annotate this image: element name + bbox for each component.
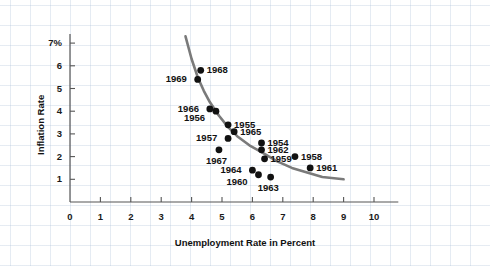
data-point [213, 108, 220, 115]
x-tick-label: 6 [237, 212, 267, 222]
data-point-label: 1963 [258, 183, 279, 193]
data-point-label: 1961 [316, 163, 337, 173]
data-point [225, 135, 232, 142]
x-tick-label: 4 [177, 212, 207, 222]
data-point-label: 1969 [166, 74, 187, 84]
x-tick-label: 7 [268, 212, 298, 222]
data-point [261, 155, 268, 162]
x-tick-label: 3 [146, 212, 176, 222]
data-point [307, 165, 314, 172]
y-tick-label: 5 [22, 84, 62, 94]
x-tick-label: 9 [329, 212, 359, 222]
origin-label: 0 [55, 212, 85, 222]
data-point-label: 1958 [301, 152, 322, 162]
data-point-label: 1959 [271, 154, 292, 164]
data-point-label: 1968 [207, 65, 228, 75]
y-axis-title: Inflation Rate [36, 94, 46, 154]
data-point [206, 106, 213, 113]
data-point [292, 153, 299, 160]
x-tick-label: 8 [298, 212, 328, 222]
y-tick-label: 6 [22, 61, 62, 71]
chart-container: 1234567%01234567891019681969196619561955… [0, 0, 490, 266]
data-point [258, 140, 265, 147]
data-point [216, 146, 223, 153]
data-point [258, 146, 265, 153]
data-point [194, 76, 201, 83]
data-point-label: 1964 [220, 165, 241, 175]
data-point [197, 67, 204, 74]
y-tick-label: 7% [22, 38, 62, 48]
data-point [255, 171, 262, 178]
data-point [267, 174, 274, 181]
data-point-label: 1957 [196, 133, 217, 143]
data-point [249, 167, 256, 174]
data-point [225, 121, 232, 128]
x-tick-label: 5 [207, 212, 237, 222]
x-axis-title: Unemployment Rate in Percent [0, 238, 490, 248]
data-point-label: 1965 [240, 127, 261, 137]
data-point-label: 1960 [226, 177, 247, 187]
x-tick-label: 10 [359, 212, 389, 222]
x-tick-label: 1 [85, 212, 115, 222]
x-tick-label: 2 [116, 212, 146, 222]
data-point-label: 1956 [184, 113, 205, 123]
y-tick-label: 1 [22, 174, 62, 184]
